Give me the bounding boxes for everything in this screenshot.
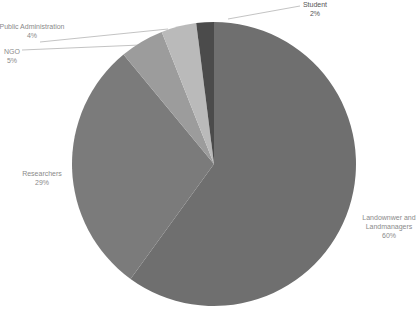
label-percent: 2% (298, 9, 332, 18)
label-percent: 5% (2, 56, 22, 65)
label-name: Public Administration (0, 22, 72, 31)
pie-chart (0, 0, 419, 317)
label-percent: 60% (358, 231, 419, 240)
leader-line-ngo (22, 45, 140, 50)
label-name-line1: Landownwer and (358, 213, 419, 222)
pie-slices (72, 22, 356, 306)
label-percent: 29% (18, 178, 66, 187)
label-landowner: Landownwer and Landmanagers 60% (358, 213, 419, 240)
label-name: Researchers (18, 169, 66, 178)
leader-line-student (228, 6, 300, 19)
label-name-line2: Landmanagers (358, 222, 419, 231)
label-percent: 4% (0, 31, 72, 40)
label-researchers: Researchers 29% (18, 169, 66, 187)
label-name: NGO (2, 47, 22, 56)
label-name: Student (298, 0, 332, 9)
label-student: Student 2% (298, 0, 332, 18)
label-public-administration: Public Administration 4% (0, 22, 72, 40)
label-ngo: NGO 5% (2, 47, 22, 65)
